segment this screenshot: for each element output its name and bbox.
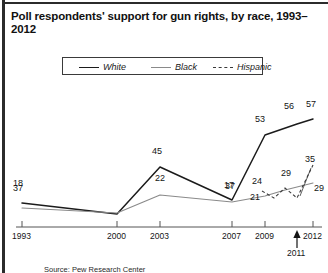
data-label-black-2007: 17: [224, 180, 234, 190]
data-label-white-2012: 57: [306, 99, 316, 109]
data-label-black-2012: 29: [314, 183, 324, 193]
series-line-white: [22, 119, 313, 214]
data-label-hispanic-2011: 29: [281, 168, 291, 178]
x-tick-label-2003: 2003: [150, 231, 169, 241]
x-tick-label-2000: 2000: [107, 231, 126, 241]
x-tick-label-2011-callout: 2011: [287, 248, 305, 258]
data-label-black-2009: 21: [250, 192, 260, 202]
x-tick-label-2009: 2009: [255, 231, 274, 241]
data-label-white-2003: 45: [152, 146, 162, 156]
x-tick-label-1993: 1993: [12, 231, 31, 241]
x-tick-label-2012: 2012: [303, 231, 322, 241]
label-leader-line-35: [300, 168, 311, 196]
data-label-hispanic-2009: 24: [252, 176, 262, 186]
data-label-white-2009: 53: [255, 114, 265, 124]
data-label-black-2003: 22: [155, 173, 165, 183]
x-axis-ticks: [22, 221, 313, 227]
data-label-hispanic-2012: 35: [305, 154, 315, 164]
year-2011-arrow-icon: [293, 230, 300, 248]
chart-page: Poll respondents' support for gun rights…: [0, 0, 328, 273]
data-label-white-2011: 56: [284, 101, 294, 111]
data-label-black-1993: 18: [13, 178, 23, 188]
source-note: Source: Pew Research Center: [44, 265, 324, 273]
x-tick-label-2007: 2007: [222, 231, 241, 241]
